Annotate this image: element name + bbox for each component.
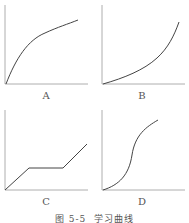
- panel-label-c: C: [31, 196, 61, 207]
- panel-b: B: [94, 0, 189, 105]
- panel-label-d: D: [127, 196, 157, 207]
- panel-label-b: B: [127, 90, 157, 101]
- curve-a: [6, 20, 78, 84]
- panel-label-a: A: [31, 90, 61, 101]
- curve-d: [103, 120, 158, 190]
- panel-c: C: [0, 105, 95, 210]
- chart-c: [0, 105, 95, 210]
- panel-d: D: [94, 105, 189, 210]
- curve-c: [5, 144, 87, 190]
- panel-a: A: [0, 0, 95, 105]
- chart-d: [94, 105, 189, 210]
- curve-b: [103, 22, 179, 84]
- figure-caption: 图 5-5 学习曲线: [0, 212, 189, 223]
